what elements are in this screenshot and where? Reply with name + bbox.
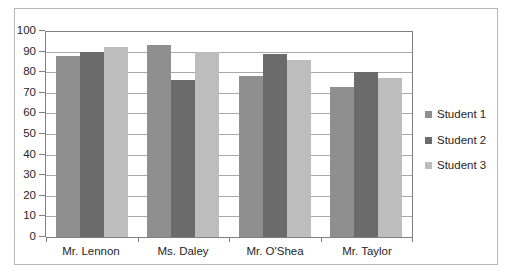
- legend-item-label: Student 3: [437, 160, 486, 172]
- bar[interactable]: [171, 80, 195, 237]
- legend-item[interactable]: Student 2: [425, 135, 486, 147]
- x-axis-tick: [321, 237, 322, 242]
- bar[interactable]: [195, 52, 219, 237]
- y-axis-tick-label: 90: [23, 46, 36, 58]
- bar[interactable]: [104, 47, 128, 237]
- x-axis-tick-label: Mr. Lennon: [45, 245, 137, 257]
- bar-group: [321, 31, 413, 237]
- bar[interactable]: [147, 45, 171, 237]
- bar[interactable]: [378, 78, 402, 237]
- legend-item[interactable]: Student 3: [425, 160, 486, 172]
- bar[interactable]: [263, 54, 287, 237]
- y-axis-tick: [39, 133, 45, 134]
- y-axis-tick: [39, 71, 45, 72]
- x-axis-ticks: [46, 237, 412, 243]
- y-axis-tick-label: 70: [23, 87, 36, 99]
- y-axis-tick: [39, 92, 45, 93]
- x-axis-tick: [229, 237, 230, 242]
- y-axis-tick: [39, 195, 45, 196]
- y-axis-tick: [39, 215, 45, 216]
- x-axis-tick: [412, 237, 413, 242]
- legend-swatch-icon: [425, 162, 432, 169]
- x-axis-labels: Mr. LennonMs. DaleyMr. O'SheaMr. Taylor: [45, 245, 413, 257]
- y-axis-tick-label: 20: [23, 190, 36, 202]
- x-axis-tick: [46, 237, 47, 242]
- y-axis-tick-label: 30: [23, 169, 36, 181]
- x-axis-tick: [138, 237, 139, 242]
- bar[interactable]: [287, 60, 311, 237]
- bar[interactable]: [330, 87, 354, 237]
- y-axis-tick: [39, 154, 45, 155]
- y-axis-tick: [39, 112, 45, 113]
- y-axis-tick: [39, 30, 45, 31]
- y-axis-tick-label: 10: [23, 211, 36, 223]
- x-axis-tick-label: Ms. Daley: [137, 245, 229, 257]
- legend-swatch-icon: [425, 137, 432, 144]
- bar[interactable]: [80, 52, 104, 237]
- y-axis-tick-label: 50: [23, 128, 36, 140]
- y-axis-tick-label: 0: [30, 231, 36, 243]
- bar[interactable]: [354, 72, 378, 237]
- y-axis-tick-label: 40: [23, 149, 36, 161]
- x-axis-tick-label: Mr. O'Shea: [229, 245, 321, 257]
- bar-group: [229, 31, 321, 237]
- bar-group: [46, 31, 138, 237]
- y-axis-tick-label: 80: [23, 66, 36, 78]
- y-axis-tick: [39, 236, 45, 237]
- y-axis-tick-label: 60: [23, 108, 36, 120]
- bar-group: [138, 31, 230, 237]
- bar[interactable]: [239, 76, 263, 237]
- bar[interactable]: [56, 56, 80, 237]
- y-axis-tick: [39, 174, 45, 175]
- legend-item-label: Student 2: [437, 135, 486, 147]
- plot-area: [45, 31, 413, 237]
- legend-swatch-icon: [425, 111, 432, 118]
- chart-frame: 1009080706050403020100 Mr. LennonMs. Dal…: [14, 8, 498, 265]
- y-axis-tick-label: 100: [17, 25, 36, 37]
- plot-wrapper: 1009080706050403020100 Mr. LennonMs. Dal…: [45, 31, 413, 237]
- chart-legend: Student 1Student 2Student 3: [425, 109, 486, 172]
- y-axis-tick: [39, 51, 45, 52]
- x-axis-tick-label: Mr. Taylor: [321, 245, 413, 257]
- legend-item-label: Student 1: [437, 109, 486, 121]
- legend-item[interactable]: Student 1: [425, 109, 486, 121]
- bars-layer: [46, 31, 412, 237]
